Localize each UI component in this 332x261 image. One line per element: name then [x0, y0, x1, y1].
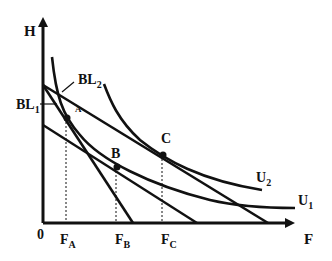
- label-bl1: BL1: [16, 97, 40, 115]
- point-c: [160, 152, 167, 159]
- point-a: [64, 115, 71, 122]
- tick-label-fc: FC: [161, 232, 177, 250]
- label-bl2: BL2: [78, 72, 102, 90]
- indifference-curve-diagram: H F 0 FA FB FC A B C BL1 BL2 U1 U2: [0, 0, 332, 261]
- tick-label-fa: FA: [60, 232, 77, 250]
- label-u1: U1: [298, 193, 313, 211]
- label-u2: U2: [256, 170, 271, 188]
- bl2-leader: [62, 82, 74, 92]
- point-label-a: A: [75, 104, 82, 114]
- y-axis-label: H: [24, 23, 36, 39]
- point-b: [114, 164, 121, 171]
- origin-label: 0: [37, 227, 44, 242]
- tick-label-fb: FB: [115, 232, 131, 250]
- point-label-b: B: [111, 146, 120, 161]
- x-axis-label: F: [304, 231, 313, 247]
- point-label-c: C: [161, 131, 171, 146]
